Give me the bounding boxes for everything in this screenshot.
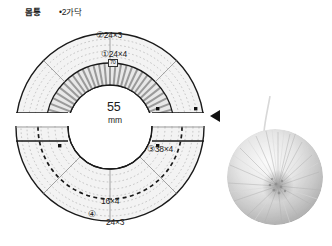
outer-ring-top-label: ②24×3 — [96, 31, 122, 40]
center-diameter-value: 55 — [107, 101, 121, 114]
page-root: 몸통 •2가닥 — [0, 0, 332, 246]
bottom-inner-label: 16×4 — [101, 197, 119, 206]
inner-ring-small-label: 70 — [108, 59, 118, 67]
pompom-stem — [256, 96, 276, 132]
center-hole — [69, 86, 151, 168]
bottom-outer-label: 24×3 — [106, 218, 124, 227]
inner-ring-top-label: ①24×4 — [101, 50, 127, 59]
pompom-template-diagram — [8, 14, 212, 240]
right-sector-label: ③38×4 — [147, 145, 173, 154]
center-diameter-unit: mm — [108, 116, 122, 125]
finished-pompom-photo — [226, 128, 324, 226]
direction-arrow-marker — [210, 110, 220, 122]
bottom-circle-marker: ④ — [88, 210, 96, 219]
